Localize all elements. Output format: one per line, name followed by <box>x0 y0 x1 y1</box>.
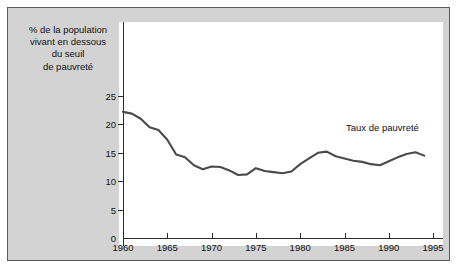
chart-panel: % de la population vivant en dessous du … <box>7 7 450 261</box>
series-layer <box>8 8 451 262</box>
series-annotation-label: Taux de pauvreté <box>346 122 419 133</box>
chart-figure: % de la population vivant en dessous du … <box>0 0 458 268</box>
